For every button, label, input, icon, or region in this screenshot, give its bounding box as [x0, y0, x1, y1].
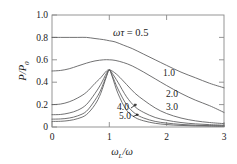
legend-omega-symbol: ω: [113, 27, 120, 38]
y-axis-label-den-sub: 0: [23, 61, 31, 65]
y-tick-label: 1.0: [36, 10, 48, 20]
x-tick-label: 3: [222, 132, 227, 142]
y-tick-label: 0.6: [36, 55, 48, 65]
x-tick-label: 1: [107, 132, 112, 142]
chart-figure: 0 0.2 0.4 0.6 0.8 1.0 0 1 2 3 P/P0 ωL/ω: [0, 0, 237, 164]
y-tick-label: 0.8: [36, 33, 48, 43]
curve-label-5: 5.0: [119, 111, 131, 121]
x-tick-labels: 0 1 2 3: [50, 132, 227, 142]
svg-text:P/P0: P/P0: [17, 61, 31, 82]
x-tick-label: 2: [164, 132, 169, 142]
y-tick-label: 0: [43, 122, 48, 132]
curve-label-3: 3.0: [166, 102, 178, 112]
legend-equals-value: = 0.5: [127, 27, 149, 38]
x-axis-label: ωL/ω: [111, 146, 133, 160]
x-axis-label-num: ω: [111, 146, 118, 157]
resonance-line-chart: 0 0.2 0.4 0.6 0.8 1.0 0 1 2 3 P/P0 ωL/ω: [0, 0, 237, 164]
curve-label-2: 2.0: [166, 89, 178, 99]
y-tick-label: 0.4: [36, 77, 48, 87]
y-tick-label: 0.2: [36, 100, 48, 110]
legend-omega-tau: ωτ = 0.5: [113, 27, 148, 38]
x-axis-label-den: ω: [125, 146, 132, 157]
curve-label-1: 1.0: [163, 68, 175, 78]
y-tick-labels: 0 0.2 0.4 0.6 0.8 1.0: [36, 10, 48, 132]
x-tick-label: 0: [50, 132, 55, 142]
y-axis-label: P/P0: [17, 61, 31, 82]
